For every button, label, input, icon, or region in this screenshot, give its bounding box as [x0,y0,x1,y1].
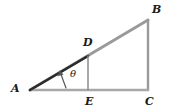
angle-theta-arrow [58,71,67,88]
vertex-label-a: A [11,83,20,94]
vertex-label-b: B [152,4,161,15]
vertex-label-e: E [85,96,93,107]
angle-label-theta: θ [70,69,76,79]
vertex-label-d: D [83,37,93,48]
geometry-figure: A B C D E θ [0,0,171,112]
vertex-label-c: C [145,96,154,107]
